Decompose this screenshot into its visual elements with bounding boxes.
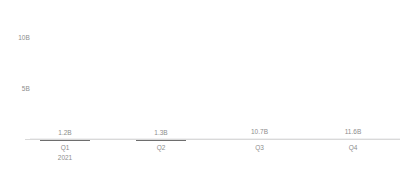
x-axis-category-label-q3-text: Q3 [255, 144, 264, 151]
x-axis-category-label-q1: Q1 2021 [40, 143, 90, 163]
bar-value-label-q4: 11.6B [328, 128, 378, 136]
plot-area: 1.2B 1.3B 10.7B 11.6B [30, 10, 400, 140]
x-axis-category-label-q2: Q2 [136, 143, 186, 153]
x-axis-category-label-q3: Q3 [231, 143, 288, 153]
x-axis-line [25, 139, 400, 140]
x-axis-category-sublabel-q1: 2021 [40, 153, 90, 163]
bar-group-q3[interactable]: 10.7B [231, 10, 288, 140]
y-axis-tick-label-5b: 5B [8, 85, 30, 93]
bar-value-label-q3: 10.7B [231, 128, 288, 136]
bar-value-label-q1: 1.2B [40, 129, 90, 137]
bar-chart: 10B 5B 1.2B 1.3B 10.7B 11.6B Q1 2021 [0, 0, 407, 172]
y-axis-tick-label-10b: 10B [8, 34, 30, 42]
x-axis-category-label-q4-text: Q4 [349, 144, 358, 151]
x-axis-category-label-q1-text: Q1 [61, 144, 70, 151]
bar-group-q2[interactable]: 1.3B [136, 10, 186, 140]
bar-group-q4[interactable]: 11.6B [328, 10, 378, 140]
bar-value-label-q2: 1.3B [136, 129, 186, 137]
bar-group-q1[interactable]: 1.2B [40, 10, 90, 140]
x-axis-category-label-q4: Q4 [328, 143, 378, 153]
x-axis-category-label-q2-text: Q2 [157, 144, 166, 151]
